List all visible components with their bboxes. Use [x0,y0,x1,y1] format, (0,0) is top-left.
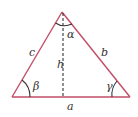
angle-gamma-arc [112,81,117,97]
angle-beta-arc [22,80,30,97]
label-side-c: c [29,46,35,59]
label-angle-gamma: γ [106,80,113,93]
angle-alpha-arc [56,23,73,26]
triangle-diagram: c b h α β γ a [0,0,138,117]
label-side-a: a [67,100,74,113]
side-b [62,12,130,97]
label-side-b: b [101,46,108,59]
label-angle-beta: β [32,80,39,93]
label-height: h [57,58,64,71]
label-angle-alpha: α [67,28,75,41]
